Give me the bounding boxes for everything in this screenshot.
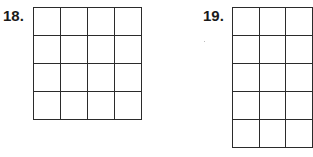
grid-cell	[88, 64, 115, 92]
grid-cell	[286, 64, 313, 92]
grid-cell	[61, 36, 88, 64]
grid-19-body	[233, 8, 313, 148]
grid-cell	[286, 92, 313, 120]
grid-cell	[61, 8, 88, 36]
grid-row	[233, 92, 313, 120]
grid-row	[34, 92, 142, 120]
grid-18-body	[34, 8, 142, 120]
problem-18-grid	[33, 7, 142, 120]
grid-cell	[233, 64, 260, 92]
grid-cell	[34, 8, 61, 36]
stray-dot	[204, 41, 205, 42]
problem-19-number: 19.	[203, 8, 224, 23]
grid-cell	[88, 92, 115, 120]
grid-cell	[34, 92, 61, 120]
grid-row	[233, 64, 313, 92]
grid-cell	[286, 120, 313, 148]
grid-cell	[286, 36, 313, 64]
grid-row	[34, 64, 142, 92]
grid-cell	[115, 92, 142, 120]
grid-row	[233, 120, 313, 148]
grid-cell	[259, 92, 286, 120]
grid-row	[233, 36, 313, 64]
grid-cell	[233, 36, 260, 64]
grid-cell	[233, 120, 260, 148]
grid-cell	[88, 8, 115, 36]
grid-cell	[61, 92, 88, 120]
grid-cell	[286, 8, 313, 36]
grid-cell	[233, 92, 260, 120]
grid-cell	[34, 36, 61, 64]
grid-row	[233, 8, 313, 36]
grid-cell	[233, 8, 260, 36]
grid-cell	[259, 64, 286, 92]
grid-cell	[88, 36, 115, 64]
grid-row	[34, 8, 142, 36]
grid-cell	[115, 64, 142, 92]
grid-row	[34, 36, 142, 64]
grid-cell	[259, 120, 286, 148]
problem-19-grid	[232, 7, 313, 148]
grid-cell	[61, 64, 88, 92]
grid-cell	[34, 64, 61, 92]
problem-18-number: 18.	[3, 8, 24, 23]
grid-cell	[259, 36, 286, 64]
grid-cell	[115, 36, 142, 64]
grid-cell	[115, 8, 142, 36]
grid-cell	[259, 8, 286, 36]
